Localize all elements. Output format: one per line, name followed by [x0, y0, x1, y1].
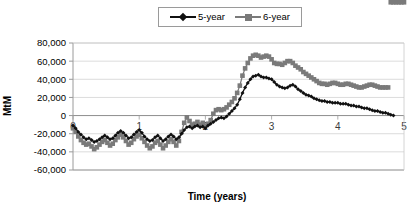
- svg-text:20,000: 20,000: [37, 92, 66, 103]
- plot-area: -60,000-40,000-20,000020,00040,00060,000…: [0, 0, 414, 216]
- svg-text:80,000: 80,000: [37, 37, 66, 48]
- y-tick-labels: -60,000-40,000-20,000020,00040,00060,000…: [34, 37, 66, 175]
- svg-text:60,000: 60,000: [37, 56, 66, 67]
- svg-text:-60,000: -60,000: [34, 164, 66, 175]
- svg-text:0: 0: [61, 110, 66, 121]
- series-line-6-year: [71, 0, 407, 151]
- svg-text:-20,000: -20,000: [34, 128, 66, 139]
- svg-text:40,000: 40,000: [37, 74, 66, 85]
- svg-text:3: 3: [269, 121, 275, 132]
- svg-text:4: 4: [335, 121, 341, 132]
- svg-text:-40,000: -40,000: [34, 146, 66, 157]
- mtm-time-series-chart: 5-year 6-year MtM Time (years) -60,000-4…: [0, 0, 414, 216]
